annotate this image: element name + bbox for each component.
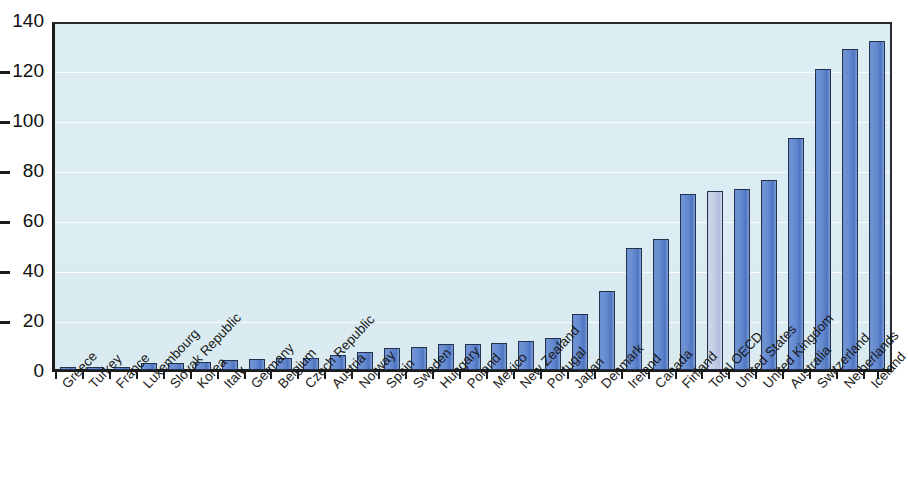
bar — [707, 191, 723, 370]
bars-layer — [55, 24, 890, 370]
y-axis-tick-label: 140 — [0, 10, 44, 32]
y-axis: 020406080100120140 — [0, 0, 52, 372]
y-axis-tick-mark — [0, 71, 10, 74]
y-axis-tick-mark — [0, 321, 10, 324]
bar — [842, 49, 858, 370]
x-axis-tick-mark — [55, 372, 57, 379]
y-axis-tick-mark — [0, 271, 10, 274]
x-axis-labels: GreeceTurkeyFranceLuxembourgSlovak Repub… — [0, 379, 899, 494]
bar — [869, 41, 885, 370]
y-axis-tick-mark — [0, 171, 10, 174]
y-axis-tick-mark — [0, 121, 10, 124]
y-axis-tick-mark — [0, 221, 10, 224]
bar — [653, 239, 669, 370]
bar — [680, 194, 696, 370]
